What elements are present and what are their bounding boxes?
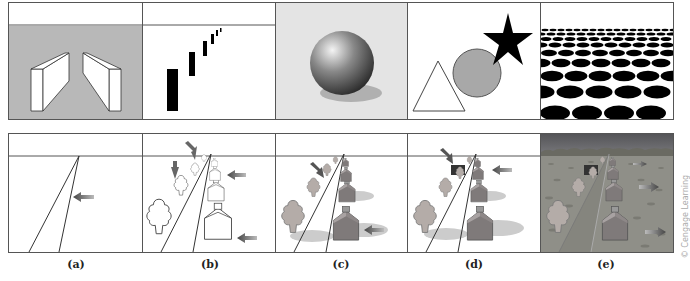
sphere-illustration [276, 3, 407, 119]
walls-illustration [9, 3, 142, 119]
road-lines-illustration [9, 134, 142, 252]
arrow-icon [185, 141, 197, 160]
panel-bottom-a [8, 133, 143, 253]
bars-illustration [143, 3, 275, 119]
panel-top-d [407, 2, 541, 120]
arrow-icon [237, 233, 257, 243]
panel-top-b [142, 2, 276, 120]
panel-bottom-e [540, 133, 674, 253]
panel-bottom-d [407, 133, 541, 253]
occlusion-scene-illustration [408, 134, 540, 252]
caption-a: (a) [56, 258, 96, 271]
caption-e: (e) [586, 258, 626, 271]
panel-top-c [275, 2, 408, 120]
texture-gradient-illustration [541, 3, 673, 119]
outline-scene-illustration [143, 134, 275, 252]
shapes-illustration [408, 3, 540, 119]
arrow-icon [73, 192, 94, 202]
arrow-icon [227, 170, 246, 180]
full-scene-illustration [541, 134, 673, 252]
arrow-icon [171, 161, 179, 179]
shaded-scene-illustration [276, 134, 407, 252]
caption-b: (b) [190, 258, 230, 271]
credit-text: © Cengage Learning [681, 175, 690, 258]
copyright-credit: © Cengage Learning [676, 180, 688, 260]
panel-top-a [8, 2, 143, 120]
caption-c: (c) [321, 258, 361, 271]
caption-d: (d) [454, 258, 494, 271]
panel-bottom-b [142, 133, 276, 253]
arrow-icon [310, 162, 324, 178]
arrow-icon [492, 165, 512, 175]
panel-top-e [540, 2, 674, 120]
panel-bottom-c [275, 133, 408, 253]
